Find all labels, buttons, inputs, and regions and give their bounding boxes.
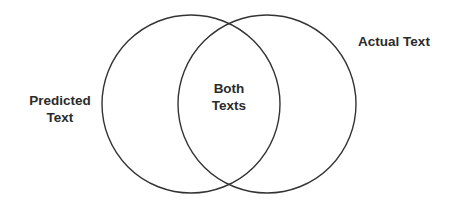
actual-text-label: Actual Text	[350, 33, 438, 50]
predicted-text-label-line1: Predicted	[18, 92, 102, 109]
both-texts-label: Both Texts	[194, 80, 264, 114]
venn-diagram: Predicted Text Both Texts Actual Text	[0, 0, 455, 202]
actual-text-label-text: Actual Text	[350, 33, 438, 50]
both-texts-label-line2: Texts	[194, 97, 264, 114]
both-texts-label-line1: Both	[194, 80, 264, 97]
predicted-text-label: Predicted Text	[18, 92, 102, 126]
predicted-text-label-line2: Text	[18, 109, 102, 126]
